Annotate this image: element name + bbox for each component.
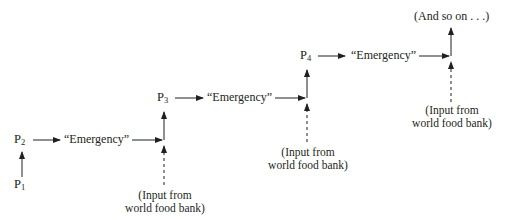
input-note-3-line1: (Input from bbox=[406, 104, 498, 117]
input-note-3: (Input from world food bank) bbox=[406, 104, 498, 130]
emergency-label-2: “Emergency” bbox=[207, 91, 272, 104]
continuation-label: (And so on . . .) bbox=[414, 10, 489, 23]
input-note-2: (Input from world food bank) bbox=[262, 146, 354, 172]
input-note-1-line2: world food bank) bbox=[119, 202, 211, 215]
input-note-1-line1: (Input from bbox=[119, 189, 211, 202]
node-p4: P4 bbox=[300, 49, 311, 65]
node-p2: P2 bbox=[14, 133, 25, 149]
input-note-3-line2: world food bank) bbox=[406, 117, 498, 130]
emergency-label-1: “Emergency” bbox=[64, 133, 129, 146]
input-note-2-line1: (Input from bbox=[262, 146, 354, 159]
input-note-2-line2: world food bank) bbox=[262, 159, 354, 172]
node-p1: P1 bbox=[14, 178, 25, 194]
node-p3: P3 bbox=[157, 91, 168, 107]
input-note-1: (Input from world food bank) bbox=[119, 189, 211, 215]
emergency-label-3: “Emergency” bbox=[351, 49, 416, 62]
